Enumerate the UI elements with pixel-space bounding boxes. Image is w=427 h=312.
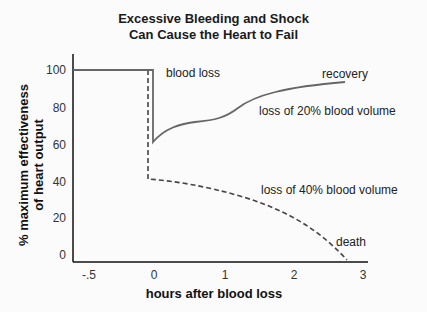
y-tick-100: 100	[46, 63, 66, 77]
annotation-blood-loss: blood loss	[166, 66, 220, 80]
y-tick-60: 60	[53, 138, 67, 152]
x-axis-label: hours after blood loss	[146, 286, 283, 301]
y-tick-40: 40	[53, 175, 67, 189]
y-axis-label-line-1: % maximum effectiveness	[16, 84, 31, 246]
y-tick-80: 80	[53, 101, 67, 115]
series-loss-40-line	[148, 70, 347, 260]
x-tick-2: 2	[291, 268, 298, 282]
annotation-death: death	[336, 235, 366, 249]
x-tick-neg-half: -.5	[82, 268, 96, 282]
x-tick-3: 3	[360, 268, 367, 282]
x-tick-0: 0	[151, 268, 158, 282]
y-tick-20: 20	[53, 211, 67, 225]
y-axis-label: % maximum effectiveness of heart output	[16, 84, 46, 246]
annotation-recovery: recovery	[322, 67, 368, 81]
annotation-loss-20: loss of 20% blood volume	[259, 104, 396, 118]
annotation-loss-40: loss of 40% blood volume	[261, 183, 398, 197]
x-tick-1: 1	[222, 268, 229, 282]
y-tick-0: 0	[59, 248, 66, 262]
chart-plot: 100 80 60 40 20 0 -.5 0 1 2 3 hours afte…	[0, 0, 427, 312]
y-axis-label-line-2: of heart output	[31, 118, 46, 210]
